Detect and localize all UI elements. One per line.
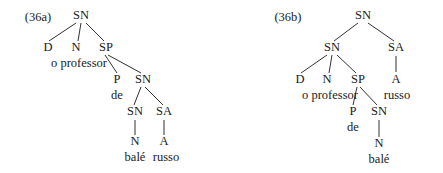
node-lower-noun-n: N bbox=[130, 134, 139, 148]
node-adj-a: A bbox=[159, 134, 168, 148]
edge-sn-to-sa bbox=[145, 87, 163, 105]
edge-sn-to-lower-sn bbox=[134, 87, 141, 105]
edge-root-to-d bbox=[49, 23, 76, 41]
edge-root-to-sn bbox=[334, 23, 358, 41]
example-label-36b: (36b) bbox=[274, 10, 301, 24]
node-adj-phrase-sa: SA bbox=[388, 40, 404, 54]
node-word-de: de bbox=[347, 120, 359, 134]
edge-sn-to-sp bbox=[337, 55, 356, 73]
tree-36b: SNSNSADNSPAo professorrussoPSNdeNbalé(36… bbox=[274, 8, 410, 166]
tree-canvas: SNDNSPo professorPSNdeSNSANAbalérusso(36… bbox=[0, 0, 443, 173]
node-word-russo: russo bbox=[153, 150, 179, 164]
node-word-de: de bbox=[111, 88, 123, 102]
node-prep-p: P bbox=[114, 72, 121, 86]
node-prep-phrase-sp: SP bbox=[99, 40, 113, 54]
node-word-o-professor: o professor bbox=[51, 56, 108, 70]
node-upper-sn: SN bbox=[324, 40, 340, 54]
edge-sp-to-sn bbox=[360, 87, 377, 105]
node-inner-sn: SN bbox=[135, 72, 151, 86]
node-adj-a: A bbox=[391, 72, 400, 86]
node-noun-n: N bbox=[322, 72, 331, 86]
edge-sn-to-d bbox=[301, 55, 327, 73]
edge-sp-to-sn bbox=[108, 55, 141, 73]
example-label-36a: (36a) bbox=[25, 10, 51, 24]
node-det-d: D bbox=[295, 72, 304, 86]
tree-36a: SNDNSPo professorPSNdeSNSANAbalérusso(36… bbox=[25, 8, 179, 164]
node-prep-phrase-sp: SP bbox=[351, 72, 365, 86]
node-word-o-professor: o professor bbox=[302, 88, 359, 102]
node-noun-n: N bbox=[71, 40, 80, 54]
syntax-tree-figure: SNDNSPo professorPSNdeSNSANAbalérusso(36… bbox=[0, 0, 443, 173]
node-root-sn: SN bbox=[355, 8, 371, 22]
node-word-russo: russo bbox=[384, 88, 410, 102]
edge-root-to-n bbox=[78, 23, 81, 41]
node-inner-sn: SN bbox=[371, 104, 387, 118]
edge-root-to-sp bbox=[86, 23, 104, 41]
edge-root-to-sa bbox=[368, 23, 394, 41]
node-word-bale: balé bbox=[125, 150, 146, 164]
edge-sn-to-n bbox=[329, 55, 332, 73]
node-lower-noun-n: N bbox=[374, 136, 383, 150]
node-lower-sn: SN bbox=[127, 104, 143, 118]
node-prep-p: P bbox=[350, 104, 357, 118]
node-adj-phrase-sa: SA bbox=[156, 104, 172, 118]
node-word-bale: balé bbox=[369, 152, 390, 166]
node-det-d: D bbox=[43, 40, 52, 54]
node-root-sn: SN bbox=[73, 8, 89, 22]
